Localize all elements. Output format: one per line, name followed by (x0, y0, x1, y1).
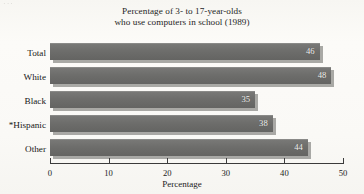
x-axis-tick-label-50: 50 (339, 168, 348, 178)
bar-value-total: 46 (306, 46, 315, 57)
bar-body-white (50, 67, 331, 84)
x-axis-tick-label-40: 40 (280, 168, 289, 178)
bar-hispanic[interactable]: 38 (50, 115, 273, 132)
bar-white[interactable]: 48 (50, 67, 331, 84)
bar-body-other (50, 139, 308, 156)
x-axis-tick-20 (167, 158, 168, 164)
x-axis-tick-label-20: 20 (163, 168, 172, 178)
bar-other[interactable]: 44 (50, 139, 308, 156)
x-axis-tick-label-10: 10 (104, 168, 113, 178)
plot-area: Total 46 White 48 Black 35 *Hispanic 38 (0, 0, 364, 194)
category-label-black: Black (0, 96, 46, 106)
category-label-total: Total (0, 48, 46, 58)
bar-value-hispanic: 38 (259, 118, 268, 129)
category-label-other: Other (0, 144, 46, 154)
category-label-hispanic: *Hispanic (0, 120, 46, 130)
bar-value-black: 35 (242, 94, 251, 105)
bar-body-total (50, 43, 320, 60)
chart-page: ··· Percentage of 3- to 17-year-olds who… (0, 0, 364, 194)
x-axis-tick-50 (343, 158, 344, 164)
x-axis-tick-10 (109, 158, 110, 164)
bar-body-hispanic (50, 115, 273, 132)
bar-value-other: 44 (294, 142, 303, 153)
x-axis-tick-40 (284, 158, 285, 164)
bar-total[interactable]: 46 (50, 43, 320, 60)
x-axis-tick-0 (50, 158, 51, 164)
x-axis-tick-30 (226, 158, 227, 164)
bar-value-white: 48 (318, 70, 327, 81)
category-label-white: White (0, 72, 46, 82)
bar-black[interactable]: 35 (50, 91, 255, 108)
bar-body-black (50, 91, 255, 108)
x-axis-title: Percentage (0, 179, 364, 190)
x-axis-tick-label-30: 30 (222, 168, 231, 178)
x-axis-tick-label-0: 0 (48, 168, 52, 178)
x-axis-line (50, 163, 343, 164)
